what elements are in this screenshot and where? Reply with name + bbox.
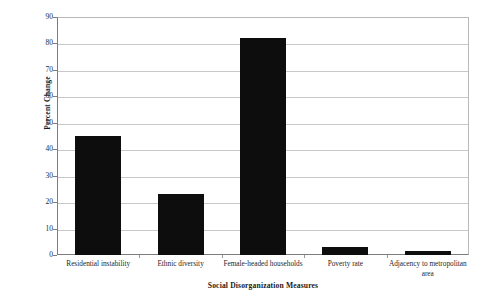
y-axis-tick-label: 30: [31, 172, 53, 180]
y-axis-tick-mark: [53, 149, 57, 150]
x-axis-tick-label: Residential instability: [57, 259, 139, 269]
x-axis-tick-mark: [304, 255, 305, 258]
y-axis-tick-label: 10: [31, 225, 53, 233]
y-axis-tick-label: 20: [31, 198, 53, 206]
x-axis-tick-label: Ethnic diversity: [139, 259, 221, 269]
y-axis-tick-mark: [53, 255, 57, 256]
y-axis-tick-mark: [53, 96, 57, 97]
y-axis-tick-mark: [53, 17, 57, 18]
y-axis-tick-label: 50: [31, 119, 53, 127]
bars-container: [57, 17, 469, 255]
y-axis-tick-label: 80: [31, 39, 53, 47]
y-axis-tick-mark: [53, 70, 57, 71]
bar: [322, 247, 368, 255]
y-axis-tick-labels: 9080706050403020100: [28, 0, 53, 298]
bar: [158, 194, 204, 255]
y-axis-tick-mark: [53, 123, 57, 124]
bar: [75, 136, 121, 255]
x-axis-tick-mark: [222, 255, 223, 258]
x-axis-tick-mark: [139, 255, 140, 258]
y-axis-tick-mark: [53, 176, 57, 177]
y-axis-tick-label: 40: [31, 145, 53, 153]
x-axis-tick-mark: [387, 255, 388, 258]
bar: [405, 251, 451, 255]
x-axis-title: Social Disorganization Measures: [57, 281, 469, 290]
x-axis-tick-label: Female-headed households: [222, 259, 304, 269]
x-axis-tick-label: Poverty rate: [304, 259, 386, 269]
bar: [240, 38, 286, 255]
y-axis-tick-mark: [53, 43, 57, 44]
y-axis-tick-mark: [53, 229, 57, 230]
y-axis-tick-label: 0: [31, 251, 53, 259]
x-axis-tick-label: Adjacency to metropolitan area: [387, 259, 469, 278]
y-axis-tick-label: 90: [31, 13, 53, 21]
y-axis-tick-label: 60: [31, 92, 53, 100]
y-axis-tick-label: 70: [31, 66, 53, 74]
y-axis-tick-mark: [53, 202, 57, 203]
bar-chart: Percent Change 9080706050403020100 Resid…: [0, 0, 488, 298]
